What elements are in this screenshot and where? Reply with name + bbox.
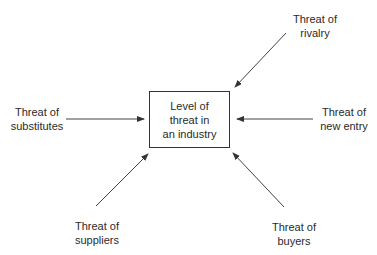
label-threat-of-substitutes: Threat of substitutes (2, 105, 72, 133)
buyers-text: Threat of buyers (272, 221, 316, 247)
new-entry-text: Threat of new entry (320, 106, 368, 132)
arrow-suppliers (96, 154, 148, 206)
suppliers-text: Threat of suppliers (75, 220, 119, 246)
substitutes-text: Threat of substitutes (11, 106, 64, 132)
label-threat-of-buyers: Threat of buyers (264, 220, 324, 248)
label-threat-of-new-entry: Threat of new entry (312, 105, 376, 133)
label-threat-of-rivalry: Threat of rivalry (285, 12, 345, 40)
label-threat-of-suppliers: Threat of suppliers (66, 219, 128, 247)
arrow-rivalry (235, 33, 286, 87)
arrow-buyers (233, 153, 284, 207)
rivalry-text: Threat of rivalry (293, 13, 337, 39)
center-box-level-of-threat: Level of threat in an industry (149, 91, 230, 148)
center-label: Level of threat in an industry (163, 99, 217, 141)
